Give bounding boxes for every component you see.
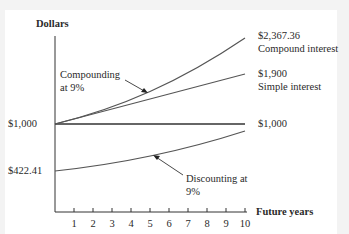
x-ticks [74, 208, 245, 212]
y-axis-title: Dollars [36, 18, 69, 30]
simple-value-label: $1,900 [258, 68, 287, 80]
y-tick-1000: $1,000 [8, 118, 37, 130]
x-tick-label: 8 [197, 218, 217, 230]
compound-name-label: Compound interest [258, 43, 338, 55]
discount-line [55, 131, 245, 171]
x-axis-title: Future years [256, 206, 313, 218]
discount-note-line1: Discounting at [186, 173, 248, 185]
x-tick-label: 7 [178, 218, 198, 230]
compounding-note-line2: at 9% [60, 82, 84, 94]
x-tick-label: 9 [216, 218, 236, 230]
y-tick-422: $422.41 [8, 165, 42, 177]
x-tick-label: 6 [159, 218, 179, 230]
x-tick-label: 2 [83, 218, 103, 230]
x-tick-label: 5 [140, 218, 160, 230]
x-tick-label: 10 [235, 218, 255, 230]
simple-name-label: Simple interest [258, 81, 321, 93]
x-tick-label: 4 [121, 218, 141, 230]
discount-note-line2: 9% [186, 186, 200, 198]
compounding-note-line1: Compounding [60, 69, 120, 81]
discounting-arrow [156, 157, 183, 175]
compound-value-label: $2,367.36 [258, 30, 300, 42]
x-tick-label: 1 [64, 218, 84, 230]
constant-value-label: $1,000 [258, 118, 287, 130]
compounding-arrowhead-icon [141, 88, 148, 93]
x-tick-label: 3 [102, 218, 122, 230]
